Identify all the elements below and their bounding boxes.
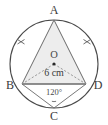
arc-tick-mark-ad: [84, 40, 91, 45]
vertex-label-a: A: [50, 3, 59, 17]
arc-tick-mark-ab: [18, 40, 25, 45]
circle-geometry-diagram: A B D C O 6 cm 120°: [0, 0, 108, 125]
vertex-label-c: C: [50, 109, 58, 123]
center-point-dot: [52, 62, 55, 65]
geometry-figure: A B D C O 6 cm 120°: [0, 0, 108, 125]
vertex-label-d: D: [94, 78, 103, 92]
radius-measure-label: 6 cm: [44, 67, 64, 78]
angle-label-c: 120°: [46, 87, 62, 97]
center-label-o: O: [50, 49, 58, 60]
vertex-label-b: B: [6, 78, 14, 92]
